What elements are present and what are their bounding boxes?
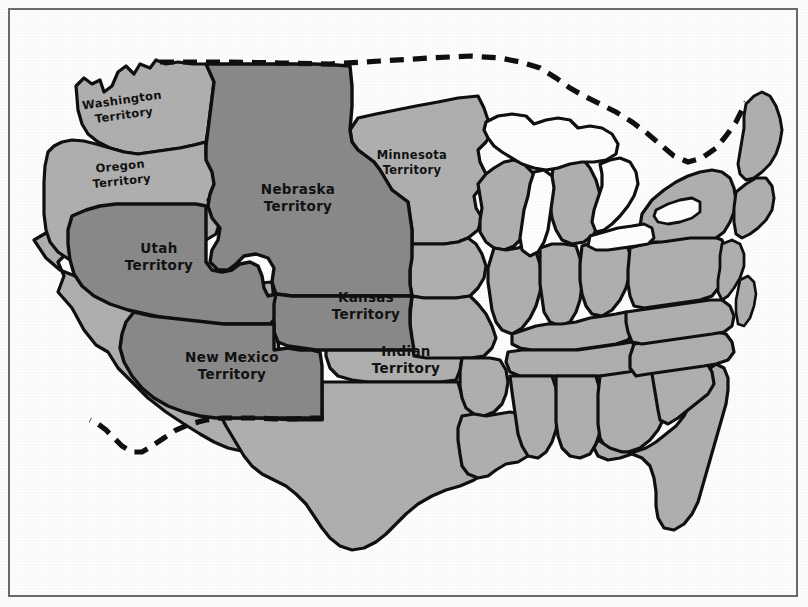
label-line-2: Territory [383, 163, 442, 177]
us-territories-map: Washington Territory Oregon Territory Ne… [0, 0, 808, 607]
label-line-1: New Mexico [185, 349, 279, 365]
label-line-1: Indian [381, 343, 430, 359]
label-kansas-territory: Kansas Territory [332, 289, 400, 322]
region-new-england [734, 178, 774, 238]
region-arkansas [460, 358, 508, 416]
label-indian-territory: Indian Territory [372, 343, 440, 376]
region-iowa [410, 238, 486, 298]
label-minnesota-territory: Minnesota Territory [377, 148, 447, 177]
region-nebraska-territory [206, 64, 412, 296]
label-nebraska-territory: Nebraska Territory [261, 181, 335, 214]
label-oregon-territory: Oregon Territory [90, 156, 152, 191]
label-line-2: Territory [332, 306, 400, 322]
region-pennsylvania [628, 236, 726, 308]
label-new-mexico-territory: New Mexico Territory [185, 349, 279, 382]
label-line-1: Kansas [338, 289, 394, 305]
label-line-2: Territory [198, 366, 266, 382]
region-indiana [540, 244, 582, 326]
label-line-2: Territory [125, 257, 193, 273]
region-illinois [488, 244, 542, 334]
region-delmarva [736, 276, 756, 326]
map-page: Washington Territory Oregon Territory Ne… [0, 0, 808, 607]
label-line-1: Minnesota [377, 148, 447, 162]
region-maine [738, 92, 782, 180]
label-line-1: Nebraska [261, 181, 335, 197]
label-line-2: Territory [264, 198, 332, 214]
water-lake-huron-erie [592, 158, 638, 232]
label-line-1: Utah [140, 240, 177, 256]
label-line-2: Territory [372, 360, 440, 376]
